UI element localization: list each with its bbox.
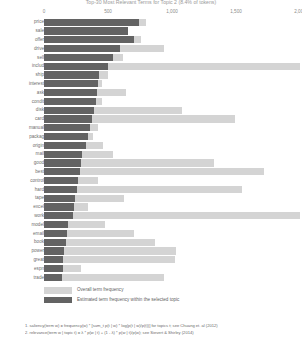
term-row[interactable]: offer <box>0 36 302 45</box>
term-row[interactable]: best <box>0 168 302 177</box>
bar-track <box>44 221 300 228</box>
bar-topic-frequency <box>44 98 96 105</box>
x-axis-tick-label: 500 <box>104 9 112 15</box>
term-label: control <box>0 177 44 184</box>
bar-track <box>44 151 300 158</box>
term-label: offer <box>0 36 44 43</box>
bar-track <box>44 80 300 87</box>
term-row[interactable]: great <box>0 256 302 265</box>
term-row[interactable]: includ <box>0 62 302 71</box>
chart-legend: Overall term frequencyEstimated term fre… <box>44 286 302 305</box>
bar-track <box>44 107 300 114</box>
term-row[interactable]: ship <box>0 71 302 80</box>
term-label: condit <box>0 98 44 105</box>
bar-track <box>44 230 300 237</box>
bar-topic-frequency <box>44 142 86 149</box>
term-row[interactable]: hard <box>0 185 302 194</box>
term-label: manual <box>0 124 44 131</box>
bar-track <box>44 177 300 184</box>
term-row[interactable]: packag <box>0 132 302 141</box>
bar-topic-frequency <box>44 133 88 140</box>
bar-topic-frequency <box>44 221 68 228</box>
term-row[interactable]: card <box>0 115 302 124</box>
term-label: packag <box>0 133 44 140</box>
term-row[interactable]: ask <box>0 88 302 97</box>
bar-track <box>44 186 300 193</box>
term-row[interactable]: price <box>0 18 302 27</box>
term-row[interactable]: origin <box>0 141 302 150</box>
term-row[interactable]: book <box>0 238 302 247</box>
bar-track <box>44 89 300 96</box>
bar-topic-frequency <box>44 247 64 254</box>
bar-track <box>44 19 300 26</box>
term-label: mail <box>0 150 44 157</box>
bar-track <box>44 27 300 34</box>
bar-track <box>44 247 300 254</box>
bar-overall-frequency <box>44 256 175 263</box>
bar-topic-frequency <box>44 195 75 202</box>
term-row[interactable]: trade <box>0 273 302 282</box>
term-row[interactable]: control <box>0 176 302 185</box>
term-row[interactable]: sell <box>0 53 302 62</box>
bar-topic-frequency <box>44 71 99 78</box>
term-row[interactable]: email <box>0 229 302 238</box>
term-row[interactable]: model <box>0 220 302 229</box>
term-label: power <box>0 247 44 254</box>
term-label: great <box>0 256 44 263</box>
bar-topic-frequency <box>44 159 81 166</box>
bar-track <box>44 274 300 281</box>
bar-topic-frequency <box>44 89 97 96</box>
bar-topic-frequency <box>44 107 94 114</box>
term-row[interactable]: manual <box>0 124 302 133</box>
bar-topic-frequency <box>44 230 67 237</box>
term-row[interactable]: tape <box>0 194 302 203</box>
bar-track <box>44 98 300 105</box>
term-row[interactable]: condit <box>0 97 302 106</box>
term-label: price <box>0 18 44 25</box>
term-row[interactable]: mail <box>0 150 302 159</box>
term-row[interactable]: interest <box>0 80 302 89</box>
x-axis-tick-label: 1,500 <box>230 9 242 15</box>
bar-track <box>44 142 300 149</box>
bar-track <box>44 36 300 43</box>
bar-track <box>44 115 300 122</box>
term-label: model <box>0 221 44 228</box>
bar-track <box>44 195 300 202</box>
bar-track <box>44 54 300 61</box>
bar-topic-frequency <box>44 45 120 52</box>
bar-topic-frequency <box>44 168 80 175</box>
term-row[interactable]: disk <box>0 106 302 115</box>
bar-topic-frequency <box>44 203 74 210</box>
bar-track <box>44 133 300 140</box>
term-label: interest <box>0 80 44 87</box>
bar-topic-frequency <box>44 115 92 122</box>
bar-track <box>44 45 300 52</box>
term-row[interactable]: power <box>0 247 302 256</box>
bar-topic-frequency <box>44 274 62 281</box>
term-label: includ <box>0 62 44 69</box>
term-label: tape <box>0 194 44 201</box>
bar-topic-frequency <box>44 177 78 184</box>
term-label: excel <box>0 203 44 210</box>
term-row[interactable]: espn <box>0 264 302 273</box>
term-row[interactable]: good <box>0 159 302 168</box>
term-label: ask <box>0 89 44 96</box>
bar-topic-frequency <box>44 256 63 263</box>
bar-overall-frequency <box>44 274 164 281</box>
bar-topic-frequency <box>44 19 139 26</box>
term-row[interactable]: excel <box>0 203 302 212</box>
term-label: sale <box>0 27 44 34</box>
term-row[interactable]: drive <box>0 44 302 53</box>
term-label: good <box>0 159 44 166</box>
bar-topic-frequency <box>44 124 90 131</box>
bar-topic-frequency <box>44 151 82 158</box>
bar-track <box>44 63 300 70</box>
legend-label: Estimated term frequency within the sele… <box>77 296 179 305</box>
legend-item: Estimated term frequency within the sele… <box>44 296 302 306</box>
term-row[interactable]: sale <box>0 27 302 36</box>
legend-swatch-icon <box>44 287 72 294</box>
term-row[interactable]: work <box>0 212 302 221</box>
bar-track <box>44 239 300 246</box>
term-label: book <box>0 238 44 245</box>
bar-overall-frequency <box>44 212 300 219</box>
